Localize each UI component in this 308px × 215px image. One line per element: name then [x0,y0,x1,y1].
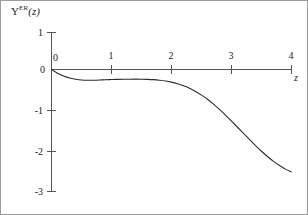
y-tick-label-1: 1 [38,27,43,38]
data-curve-series-1 [52,70,292,172]
y-tick-label-neg3: -3 [35,186,43,197]
y-tick-label-0: 0 [40,64,45,75]
plot-area: 0 1 2 3 4 1 0 -1 -2 -3 z [1,1,308,215]
y-tick-label-neg1: -1 [35,105,43,116]
chart-figure: ΥER(z) 0 1 2 3 4 1 0 -1 [0,0,308,215]
x-tick-label-0: 0 [53,52,58,63]
x-tick-label-2: 2 [169,50,174,61]
y-tick-labels-group: 1 0 -1 -2 -3 [35,27,45,197]
x-tick-label-1: 1 [109,50,114,61]
x-tick-label-3: 3 [229,50,234,61]
x-tick-labels-group: 0 1 2 3 4 [53,50,294,63]
x-tick-label-4: 4 [289,50,294,61]
x-axis-name-label: z [293,72,298,83]
y-tick-label-neg2: -2 [35,146,43,157]
